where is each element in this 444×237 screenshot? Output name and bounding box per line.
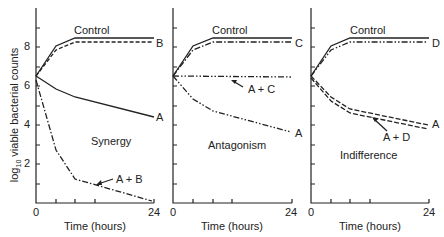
series-control (173, 38, 292, 76)
x-axis-label: Time (hours) (339, 220, 401, 232)
antimicrobial-interaction-chart: log10 viable bacterial counts 2 4 6 8 Co… (0, 0, 444, 237)
series-control (311, 38, 429, 76)
label-a-plus-d: A + D (383, 131, 410, 143)
series-a-plus-c (173, 76, 291, 77)
series-control (36, 38, 154, 76)
svg-text:0: 0 (308, 206, 314, 218)
panel-antagonism: Control C A + C A Antagonism 0 24 Time (… (170, 8, 303, 232)
label-a: A (156, 111, 164, 123)
panel-axes (311, 8, 429, 203)
svg-text:8: 8 (24, 40, 30, 52)
svg-text:24: 24 (285, 206, 297, 218)
panel-synergy: Control B A Synergy A + B 0 24 Time (hou… (33, 8, 164, 232)
panel-axes (173, 8, 292, 203)
label-d: D (432, 37, 440, 49)
panel-title-indifference: Indifference (340, 149, 397, 161)
label-a: A (432, 118, 440, 130)
svg-text:0: 0 (33, 206, 39, 218)
label-a-plus-c: A + C (248, 83, 275, 95)
svg-text:4: 4 (24, 118, 30, 130)
series-d (311, 42, 428, 76)
label-control: Control (212, 24, 247, 36)
label-b: B (156, 37, 163, 49)
panel-title-antagonism: Antagonism (208, 139, 266, 151)
label-control: Control (350, 24, 385, 36)
svg-text:24: 24 (423, 206, 435, 218)
series-a (36, 76, 154, 117)
x-axis-label: Time (hours) (201, 220, 263, 232)
svg-text:0: 0 (170, 206, 176, 218)
label-a-plus-b: A + B (116, 173, 143, 185)
label-c: C (295, 37, 303, 49)
panel-title-synergy: Synergy (91, 135, 132, 147)
label-a: A (295, 127, 303, 139)
x-axis-label: Time (hours) (64, 220, 126, 232)
series-c (173, 42, 291, 76)
svg-text:24: 24 (148, 206, 160, 218)
y-tick-labels: 2 4 6 8 (24, 40, 30, 169)
label-control: Control (74, 24, 109, 36)
y-axis-label: log10 viable bacterial counts (8, 47, 22, 182)
svg-text:2: 2 (24, 157, 30, 169)
panel-indifference: Control D A A + D Indifference 0 24 Time… (308, 8, 440, 232)
svg-text:6: 6 (24, 79, 30, 91)
series-b (36, 42, 152, 76)
